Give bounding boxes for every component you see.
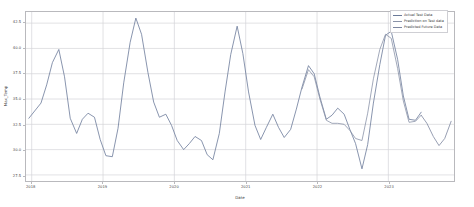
x-tick-mark [317, 182, 318, 184]
x-tick-mark [389, 182, 390, 184]
legend-swatch-icon [393, 27, 402, 28]
legend-item-1: Prediction on Test data [393, 19, 444, 24]
x-tick-label: 2023 [384, 185, 393, 189]
series-line-2 [421, 115, 451, 145]
legend-swatch-icon [393, 21, 402, 22]
x-tick-mark [246, 182, 247, 184]
legend-label: Predicted Future Data [404, 25, 442, 30]
legend-label: Prediction on Test data [404, 19, 444, 24]
y-axis-label: Max_Temp [3, 86, 8, 106]
legend-label: Actual Test Data [404, 13, 432, 18]
x-axis-label: Date [235, 195, 244, 200]
x-tick-label: 2019 [98, 185, 107, 189]
series-line-1 [302, 34, 421, 140]
series-line-0 [29, 18, 421, 169]
x-tick-label: 2022 [313, 185, 322, 189]
x-tick-mark [174, 182, 175, 184]
x-tick-mark [31, 182, 32, 184]
x-tick-label: 2018 [26, 185, 35, 189]
x-tick-label: 2021 [241, 185, 250, 189]
plot-area [25, 11, 455, 182]
chart-legend: Actual Test DataPrediction on Test dataP… [390, 10, 448, 33]
chart-figure: Max_Temp Date 27.530.032.535.037.540.042… [0, 0, 474, 207]
data-lines [26, 12, 454, 181]
x-tick-label: 2020 [169, 185, 178, 189]
x-tick-mark [102, 182, 103, 184]
legend-item-2: Predicted Future Data [393, 25, 444, 30]
legend-item-0: Actual Test Data [393, 13, 444, 18]
legend-swatch-icon [393, 15, 402, 16]
